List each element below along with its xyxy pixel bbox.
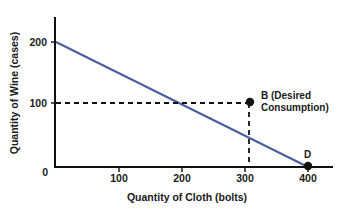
x-tick-label-200: 200 xyxy=(173,172,191,184)
y-tick-label-200: 200 xyxy=(29,36,47,48)
chart-canvas: 200 100 0 100 200 300 400 Quantity of Cl… xyxy=(0,0,342,222)
point-d-label: D xyxy=(304,149,311,160)
point-b-label-line2: Consumption) xyxy=(261,102,329,113)
point-b-marker xyxy=(246,98,254,106)
point-b-label-line1: B (Desired xyxy=(261,90,311,101)
x-tick-label-400: 400 xyxy=(299,172,317,184)
y-tick-label-0: 0 xyxy=(42,166,48,178)
x-axis-title: Quantity of Cloth (bolts) xyxy=(127,191,247,203)
point-d-marker xyxy=(304,162,312,170)
x-tick-label-300: 300 xyxy=(236,172,254,184)
y-tick-label-100: 100 xyxy=(29,97,47,109)
x-tick-label-100: 100 xyxy=(110,172,128,184)
y-axis-title: Quantity of Wine (cases) xyxy=(8,32,20,154)
ppf-chart: 200 100 0 100 200 300 400 Quantity of Cl… xyxy=(0,0,342,222)
